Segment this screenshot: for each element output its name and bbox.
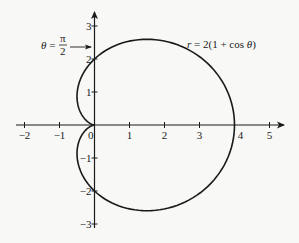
plot-canvas: −2−112345 −3−2−1123 0 r = 2(1 + cos θ) θ…: [0, 0, 299, 243]
x-tick-label: −2: [19, 129, 31, 141]
equation-label: r = 2(1 + cos θ): [187, 38, 256, 51]
pi-numerator: π: [60, 32, 66, 44]
y-tick-label: 1: [86, 86, 92, 98]
origin-label: 0: [88, 129, 94, 141]
x-tick-label: 4: [238, 129, 244, 141]
theta-annotation: θ = π 2: [41, 32, 91, 57]
two-denominator: 2: [60, 45, 66, 57]
y-tick-label: −3: [80, 218, 92, 230]
x-tick-label: 3: [197, 129, 203, 141]
x-tick-label: 5: [267, 129, 273, 141]
x-tick-label: −1: [54, 129, 66, 141]
cardioid-figure: −2−112345 −3−2−1123 0 r = 2(1 + cos θ) θ…: [0, 0, 299, 243]
svg-text:θ =: θ =: [41, 39, 55, 51]
x-tick-label: 2: [162, 129, 168, 141]
y-tick-label: −1: [80, 152, 92, 164]
y-tick-label: 3: [86, 20, 92, 32]
x-tick-label: 1: [127, 129, 133, 141]
